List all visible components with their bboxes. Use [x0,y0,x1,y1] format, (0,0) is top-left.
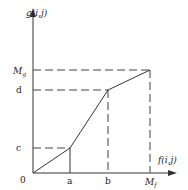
x-tick-a: a [67,176,73,186]
y-tick-mg-sub: g [22,70,26,78]
x-tick-mf: Mf [144,177,158,189]
y-tick-mg: Mg [12,66,26,78]
transform-diagram: g(i,j) f(i,j) 0 c d Mg a b Mf [0,0,188,190]
guide-lines [33,70,150,173]
x-tick-mf-sub: f [153,181,158,189]
transform-curve [33,70,150,173]
y-axis-label: g(i,j) [26,8,48,18]
origin-label: 0 [20,175,26,185]
y-tick-d: d [16,85,22,95]
x-axis-arrow-icon [168,170,177,176]
y-tick-c: c [16,143,21,153]
x-tick-b: b [105,176,111,186]
x-axis-label: f(i,j) [157,155,177,165]
